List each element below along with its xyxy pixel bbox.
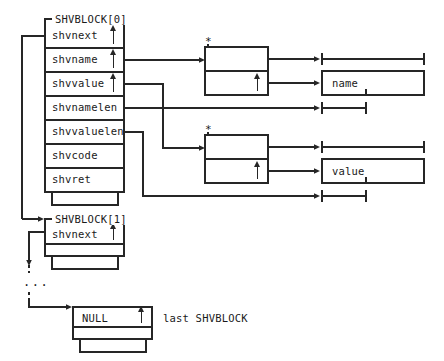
shvblock-structure-diagram: SHVBLOCK[0] shvnext shvname shvvalue shv…	[0, 0, 444, 361]
block-header-shvblock0: SHVBLOCK[0]	[53, 14, 129, 25]
field-shvnext-block1: shvnext	[52, 229, 98, 240]
field-shvnext: shvnext	[52, 30, 98, 41]
asterisk-marker-name-descriptor: *	[205, 36, 212, 47]
asterisk-marker-value-descriptor: *	[205, 124, 212, 135]
block-header-shvblock1: SHVBLOCK[1]	[53, 214, 129, 225]
field-shvvaluelen: shvvaluelen	[52, 126, 124, 137]
field-shvret: shvret	[52, 174, 91, 185]
name-buffer-label: name	[332, 78, 358, 89]
chain-ellipsis: ...	[22, 275, 50, 289]
value-buffer-label: value	[332, 166, 365, 177]
field-shvcode: shvcode	[52, 150, 98, 161]
field-shvvalue: shvvalue	[52, 78, 104, 89]
field-shvnamelen: shvnamelen	[52, 102, 117, 113]
field-shvname: shvname	[52, 54, 98, 65]
field-null: NULL	[82, 313, 108, 324]
last-shvblock-note: last SHVBLOCK	[163, 313, 248, 324]
